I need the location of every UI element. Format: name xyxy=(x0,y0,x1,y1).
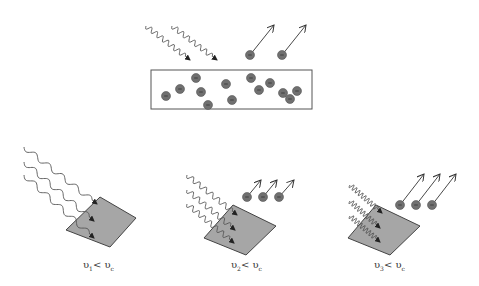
photon-wave xyxy=(24,162,94,221)
electron xyxy=(428,201,437,210)
electron xyxy=(275,193,284,202)
ejection-arrow xyxy=(432,174,456,205)
electron xyxy=(176,85,185,94)
electron xyxy=(222,80,231,89)
photon-wave xyxy=(24,175,94,238)
diagram-canvas xyxy=(0,0,479,286)
panel-1-label: υ1< υc xyxy=(83,259,114,272)
electron xyxy=(192,74,201,83)
panel-2-label: υ2< υc xyxy=(231,259,262,272)
panel-1 xyxy=(24,147,136,247)
panel-3 xyxy=(348,174,456,255)
photon-wave xyxy=(172,26,217,60)
electron xyxy=(396,201,405,210)
electron xyxy=(255,86,264,95)
electron xyxy=(278,51,287,60)
ejection-arrow xyxy=(282,25,306,55)
photon-wave xyxy=(146,26,190,60)
electron xyxy=(246,51,255,60)
electron xyxy=(162,92,171,101)
electron xyxy=(412,201,421,210)
electron xyxy=(204,101,213,110)
ejection-arrow xyxy=(416,174,440,205)
electron xyxy=(286,95,295,104)
metal-plate xyxy=(348,205,420,255)
electron xyxy=(259,193,268,202)
electron xyxy=(243,193,252,202)
photoelectric-diagram: υ1< υc υ2< υc υ3< υc xyxy=(0,0,479,286)
metal-plate xyxy=(204,205,276,255)
photon-wave xyxy=(24,147,97,204)
top-panel-metal-with-electrons xyxy=(146,25,312,110)
panel-3-label: υ3< υc xyxy=(374,259,405,272)
electron xyxy=(197,88,206,97)
ejection-arrow xyxy=(250,25,274,55)
electron xyxy=(228,96,237,105)
panel-2 xyxy=(187,175,294,255)
ejection-arrow xyxy=(400,174,424,205)
electron xyxy=(266,79,275,88)
electron xyxy=(293,87,302,96)
electron xyxy=(247,74,256,83)
bottom-panels xyxy=(24,147,456,255)
